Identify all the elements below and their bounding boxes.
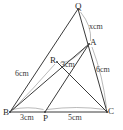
- vertex-label-b: B: [3, 108, 9, 117]
- measure-arc-bp: [12, 108, 44, 110]
- vertex-dot-r: [56, 61, 58, 63]
- vertex-label-c: C: [108, 107, 114, 116]
- length-label-ac: 6cm: [96, 66, 110, 74]
- vertex-label-p: P: [43, 114, 48, 123]
- vertex-label-q: Q: [75, 2, 82, 11]
- vertex-label-a: A: [90, 38, 97, 47]
- measure-arc-pc: [47, 108, 105, 110]
- geometry-figure: QARBPC xcm3cm6cm6cm3cm5cm: [0, 0, 123, 130]
- length-label-br: 6cm: [15, 70, 29, 78]
- length-label-ra: 3cm: [61, 61, 75, 69]
- vertex-dot-b: [9, 111, 11, 113]
- length-label-pc: 5cm: [68, 114, 82, 122]
- length-label-bp: 3cm: [20, 114, 34, 122]
- vertex-label-r: R: [50, 56, 56, 65]
- length-label-qa: xcm: [89, 23, 103, 31]
